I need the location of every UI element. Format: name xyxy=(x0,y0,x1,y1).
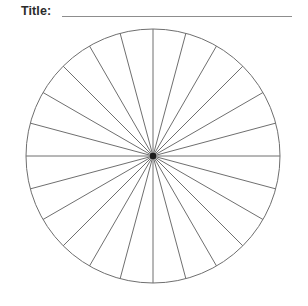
pie-chart-svg xyxy=(25,28,281,284)
pie-center-hub xyxy=(150,153,156,159)
pie-chart-figure xyxy=(25,28,281,284)
title-row: Title: xyxy=(0,0,308,26)
title-write-in-line[interactable] xyxy=(62,16,292,17)
title-label: Title: xyxy=(21,4,51,19)
worksheet-canvas: Title: xyxy=(0,0,308,306)
